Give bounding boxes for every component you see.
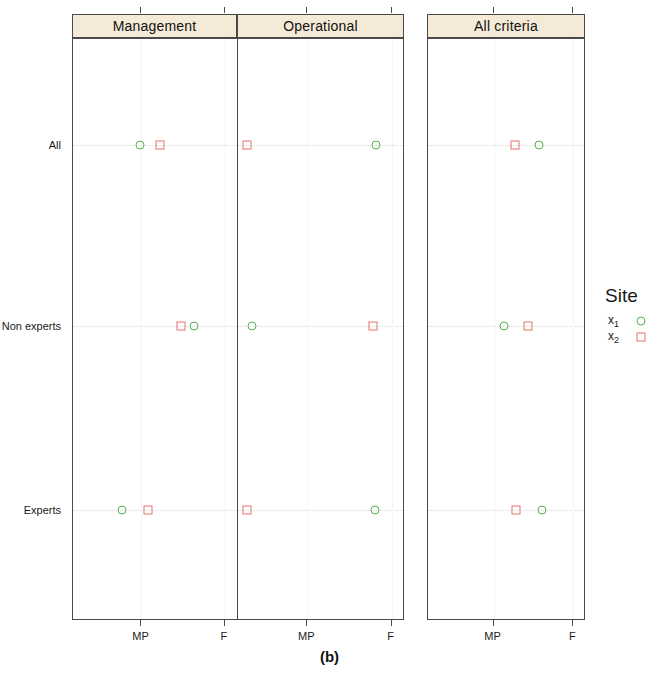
gridline-vertical xyxy=(307,39,309,619)
legend-marker-square-icon xyxy=(637,333,646,342)
gridline-vertical xyxy=(225,39,227,619)
y-axis-label-experts: Experts xyxy=(0,504,61,516)
axis-tick-top xyxy=(140,7,141,13)
legend-title: Site xyxy=(605,285,659,307)
data-point-x2 xyxy=(369,322,378,331)
axis-tick-label: F xyxy=(387,630,394,642)
y-axis-label-all: All xyxy=(0,139,61,151)
axis-tick-top xyxy=(493,7,494,13)
data-point-x1 xyxy=(370,506,379,515)
facet-strip-all-criteria: All criteria xyxy=(427,14,585,38)
legend-swatch-circle-icon xyxy=(634,314,648,328)
gridline-horizontal xyxy=(73,326,403,328)
figure-panel-b: ManagementMPFOperationalMPFAll criteriaM… xyxy=(0,0,659,677)
axis-tick-label: MP xyxy=(298,630,315,642)
axis-tick-top xyxy=(391,7,392,13)
gridline-vertical xyxy=(141,39,143,619)
facet-strip-label: Operational xyxy=(283,18,358,34)
axis-tick xyxy=(224,620,225,626)
data-point-x2 xyxy=(512,506,521,515)
axis-tick-top xyxy=(224,7,225,13)
data-point-x1 xyxy=(535,141,544,150)
gridline-vertical xyxy=(392,39,394,619)
data-point-x2 xyxy=(510,141,519,150)
axis-tick-top xyxy=(572,7,573,13)
panel-divider xyxy=(237,38,238,620)
legend-swatch-square-icon xyxy=(634,330,648,344)
legend: Site x1 x2 xyxy=(607,285,659,345)
data-point-x2 xyxy=(243,506,252,515)
axis-tick xyxy=(140,620,141,626)
plot-area xyxy=(72,38,404,620)
facet-strip-label: Management xyxy=(113,18,197,34)
axis-tick-label: MP xyxy=(484,630,501,642)
y-axis-label-non-experts: Non experts xyxy=(0,320,61,332)
data-point-x2 xyxy=(176,322,185,331)
axis-tick xyxy=(391,620,392,626)
gridline-vertical xyxy=(494,39,496,619)
data-point-x1 xyxy=(500,322,509,331)
data-point-x2 xyxy=(524,322,533,331)
legend-label-x2: x2 xyxy=(608,329,634,345)
axis-tick xyxy=(306,620,307,626)
data-point-x2 xyxy=(156,141,165,150)
data-point-x1 xyxy=(135,141,144,150)
axis-tick-label: MP xyxy=(132,630,149,642)
facet-strip-management: Management xyxy=(72,14,237,38)
axis-tick xyxy=(572,620,573,626)
gridline-vertical xyxy=(573,39,575,619)
facet-strip-operational: Operational xyxy=(237,14,404,38)
axis-tick-top xyxy=(306,7,307,13)
facet-strip-label: All criteria xyxy=(474,18,538,34)
gridline-horizontal xyxy=(428,145,584,147)
data-point-x1 xyxy=(248,322,257,331)
gridline-horizontal xyxy=(73,145,403,147)
gridline-horizontal xyxy=(428,510,584,512)
data-point-x1 xyxy=(537,506,546,515)
legend-item-x1[interactable]: x1 xyxy=(608,313,659,329)
axis-tick-label: F xyxy=(569,630,576,642)
legend-item-x2[interactable]: x2 xyxy=(608,329,659,345)
axis-tick xyxy=(493,620,494,626)
axis-tick-label: F xyxy=(220,630,227,642)
data-point-x1 xyxy=(117,506,126,515)
figure-caption: (b) xyxy=(0,648,659,665)
data-point-x1 xyxy=(372,141,381,150)
data-point-x2 xyxy=(143,506,152,515)
legend-marker-circle-icon xyxy=(637,317,646,326)
data-point-x2 xyxy=(243,141,252,150)
data-point-x1 xyxy=(190,322,199,331)
legend-label-x1: x1 xyxy=(608,313,634,329)
